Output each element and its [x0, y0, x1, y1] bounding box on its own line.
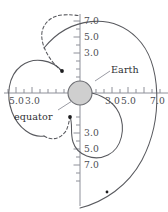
y-axis-label-7-down: 7.0	[84, 160, 99, 169]
x-axis-label-7-right: 7.0	[150, 96, 165, 105]
y-axis-label-5-up: 5.0	[84, 32, 99, 41]
outer-curve-point-marker	[106, 191, 109, 194]
equator-leader-line	[58, 101, 72, 110]
lower-left-point-marker	[68, 115, 72, 119]
y-axis-label-3-up: 3.0	[84, 48, 99, 57]
outer-field-line-curve	[44, 21, 157, 208]
x-axis-label-3-right: 3.0	[105, 96, 120, 105]
y-axis-label-5-down: 5.0	[84, 144, 99, 153]
orbital-field-line-figure: 7.0 5.0 3.0 3.0 5.0 7.0 5.0 3.0 3.0 5.0 …	[0, 0, 168, 212]
x-axis-label-5-right: 5.0	[121, 96, 136, 105]
x-axis-label-3-left: 3.0	[25, 96, 40, 105]
y-axis-label-7-up: 7.0	[84, 16, 99, 25]
left-lobe-dashed-upper-curve	[42, 15, 80, 71]
y-axis-label-3-down: 3.0	[84, 128, 99, 137]
y-axis-group	[74, 14, 81, 206]
equator-annotation-label: equator	[14, 112, 53, 122]
upper-left-point-marker	[60, 69, 64, 73]
earth-leader-line	[95, 71, 110, 81]
earth-annotation-label: Earth	[111, 65, 139, 75]
x-axis-label-5-left: 5.0	[9, 96, 24, 105]
